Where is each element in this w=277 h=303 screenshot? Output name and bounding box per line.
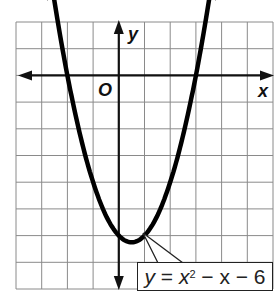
eq-equals: = — [161, 265, 173, 289]
eq-x: x — [179, 265, 190, 289]
origin-label: O — [98, 80, 112, 100]
callout-pointer — [143, 233, 183, 263]
eq-y: y — [144, 265, 155, 289]
eq-exponent: 2 — [189, 268, 195, 280]
equation-label: y = x2 − x − 6 — [137, 262, 273, 291]
eq-rest: − x − 6 — [201, 265, 265, 289]
x-axis-label: x — [257, 81, 269, 101]
graph: y x O — [0, 0, 277, 303]
y-axis-label: y — [127, 24, 139, 44]
curve-arrowheads — [47, 0, 216, 1]
grid-lines — [16, 22, 273, 289]
